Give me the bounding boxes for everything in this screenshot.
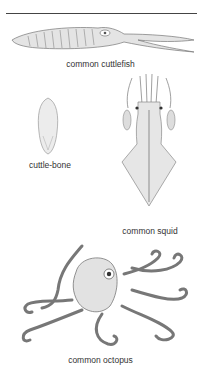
octopus-illustration — [12, 240, 192, 352]
cuttlefish-illustration — [8, 20, 198, 54]
top-rule — [6, 13, 197, 14]
caption-cuttlebone: cuttle-bone — [20, 160, 80, 170]
caption-cuttlefish: common cuttlefish — [0, 59, 201, 69]
caption-octopus: common octopus — [0, 355, 201, 365]
squid-illustration — [118, 74, 180, 208]
cuttlebone-illustration — [35, 96, 61, 156]
caption-squid: common squid — [110, 226, 190, 236]
